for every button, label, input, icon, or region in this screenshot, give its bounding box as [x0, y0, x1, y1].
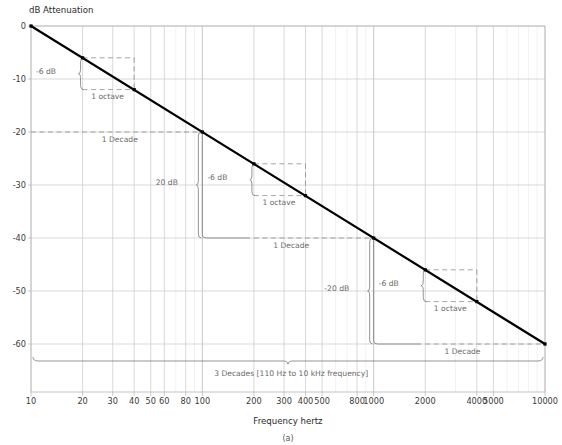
curve-marker — [424, 268, 427, 271]
y-tick-label: -20 — [13, 127, 26, 137]
annotation-guides — [31, 58, 545, 364]
figure-container: 0-10-20-30-40-50-60 10203040506080100200… — [0, 0, 562, 445]
x-tick-label: 80 — [180, 396, 190, 406]
y-tick-label: -50 — [13, 286, 26, 296]
y-tick-label: -40 — [13, 233, 26, 243]
x-tick-label: 40 — [129, 396, 139, 406]
bracket-guide — [33, 357, 543, 364]
annotation-labels: -6 dB1 octave1 Decade20 dB-6 dB1 octave1… — [36, 67, 481, 378]
annotation-dec1-db: 20 dB — [156, 178, 178, 187]
y-tick-label: -60 — [13, 339, 26, 349]
x-tick-label: 500 — [314, 396, 330, 406]
curve-marker — [29, 24, 32, 27]
y-axis-title: dB Attenuation — [29, 5, 93, 15]
x-tick-label: 60 — [159, 396, 169, 406]
annotation-dec3-span: 1 Decade — [444, 347, 480, 356]
x-tick-label: 400 — [298, 396, 314, 406]
x-tick-label: 50 — [146, 396, 156, 406]
x-tick-label: 10 — [26, 396, 36, 406]
curve-marker — [543, 342, 546, 345]
x-tick-label: 20 — [77, 396, 87, 406]
annotation-oct3-span: 1 octave — [434, 304, 467, 313]
curve-marker — [304, 194, 307, 197]
grid-minor-lines — [176, 26, 537, 392]
curve-marker — [133, 88, 136, 91]
x-tick-label: 1000 — [363, 396, 384, 406]
x-axis-tick-labels: 1020304050608010020030040050080010002000… — [26, 396, 558, 406]
x-tick-label: 30 — [107, 396, 117, 406]
annotation-oct1-db: -6 dB — [36, 67, 56, 76]
x-tick-label: 200 — [246, 396, 262, 406]
curve-marker — [201, 130, 204, 133]
curve-marker — [475, 300, 478, 303]
x-tick-label: 2000 — [415, 396, 436, 406]
curve-marker — [252, 162, 255, 165]
curve-marker — [81, 56, 84, 59]
figure-caption: (a) — [282, 434, 293, 443]
annotation-decades3: 3 Decades [110 Hz to 10 kHz frequency] — [214, 369, 368, 378]
annotation-oct2-span: 1 octave — [262, 198, 295, 207]
grid-major-lines — [31, 26, 545, 392]
annotation-oct3-db: -6 dB — [379, 279, 399, 288]
annotation-dec2-db: -20 dB — [324, 284, 349, 293]
x-tick-label: 300 — [276, 396, 292, 406]
y-axis-tick-labels: 0-10-20-30-40-50-60 — [13, 21, 31, 349]
x-tick-label: 5000 — [483, 396, 504, 406]
annotation-oct1-span: 1 octave — [91, 92, 124, 101]
bode-plot-svg: 0-10-20-30-40-50-60 10203040506080100200… — [0, 0, 562, 445]
x-tick-label: 10000 — [532, 396, 558, 406]
x-axis-title: Frequency hertz — [253, 416, 323, 426]
annotation-dec1-span: 1 Decade — [102, 135, 138, 144]
curve-marker — [372, 236, 375, 239]
y-tick-label: -10 — [13, 74, 26, 84]
annotation-oct2-db: -6 dB — [207, 173, 227, 182]
annotation-dec2-span: 1 Decade — [273, 241, 309, 250]
x-tick-label: 100 — [194, 396, 210, 406]
plot-frame — [31, 26, 545, 392]
y-tick-label: -30 — [13, 180, 26, 190]
y-tick-label: 0 — [21, 21, 26, 31]
